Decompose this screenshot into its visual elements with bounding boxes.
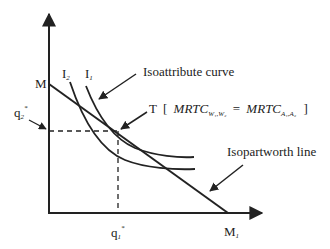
label-tangency-condition: T [ MRTCW₁,W₂ = MRTCA₁,A₂ ] xyxy=(149,101,308,119)
label-isopartworth-line: Isopartworth line xyxy=(227,144,316,159)
isopartworth-pointer-arrow xyxy=(210,165,243,191)
label-m1: M1 xyxy=(224,224,239,240)
label-q2-star: q2* xyxy=(14,104,28,121)
label-q1-star: q1* xyxy=(111,224,125,241)
isoattribute-pointer-arrow xyxy=(99,74,136,99)
tangency-pointer-arrow xyxy=(121,112,147,129)
label-m: M xyxy=(35,76,47,91)
label-i2: I2 xyxy=(62,66,70,82)
label-t: T xyxy=(149,101,157,116)
q2-pointer-arrow xyxy=(29,120,46,129)
label-isoattribute-curve: Isoattribute curve xyxy=(143,64,235,79)
label-i1: I1 xyxy=(85,66,93,82)
tangency-diagram: M M1 I2 I1 Isoattribute curve T [ MRTCW₁… xyxy=(0,0,330,249)
